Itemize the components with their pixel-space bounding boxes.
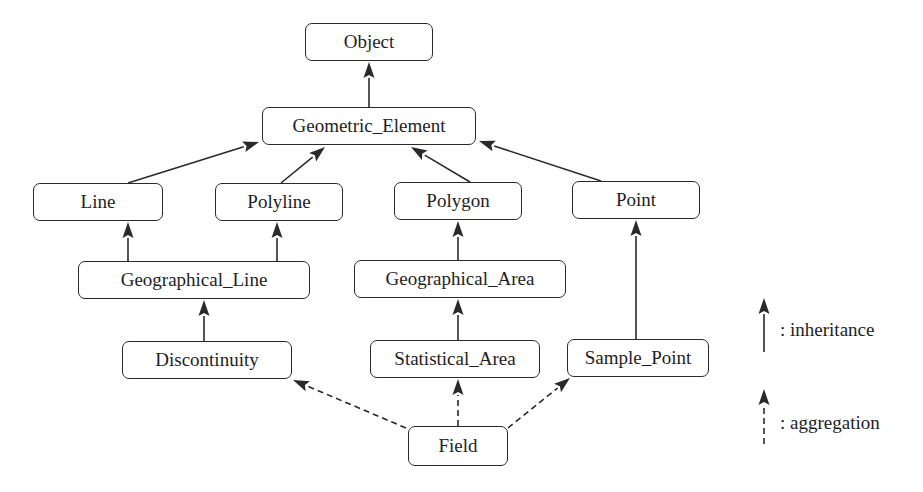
arrowhead-icon <box>272 222 283 238</box>
edge-inheritance-point-to-geometric_element <box>479 141 601 181</box>
aggregation-line <box>508 388 558 428</box>
arrowhead-icon <box>123 222 134 238</box>
class-node-point: Point <box>572 181 700 219</box>
class-node-discontinuity: Discontinuity <box>122 341 292 379</box>
class-node-field: Field <box>408 426 508 466</box>
inheritance-line <box>281 157 313 183</box>
class-node-object: Object <box>305 23 433 61</box>
class-node-label: Sample_Point <box>585 347 692 369</box>
class-node-label: Geographical_Area <box>386 268 535 290</box>
edge-inheritance-geometric_element-to-object <box>364 62 375 107</box>
edge-inheritance-geographical_area-to-polygon <box>453 221 464 260</box>
legend-aggregation-arrow-icon <box>759 389 770 444</box>
edge-aggregation-field-to-sample_point <box>508 378 570 428</box>
edge-inheritance-discontinuity-to-geographical_line <box>199 300 210 341</box>
arrowhead-icon <box>554 378 570 392</box>
edge-inheritance-geographical_line-to-line <box>123 222 134 261</box>
edge-inheritance-statistical_area-to-geographical_area <box>453 299 464 340</box>
arrowhead-icon <box>411 147 428 160</box>
legend-label-aggregation: : aggregation <box>780 412 880 434</box>
aggregation-line <box>308 386 406 428</box>
class-node-label: Field <box>438 435 477 457</box>
class-node-label: Discontinuity <box>155 349 258 371</box>
edge-inheritance-line-to-geometric_element <box>128 142 259 183</box>
inheritance-line <box>494 146 601 181</box>
class-node-geographical-area: Geographical_Area <box>354 260 566 298</box>
arrowhead-icon <box>242 142 259 152</box>
class-node-label: Point <box>616 189 656 211</box>
legend-arrows-layer <box>759 298 770 444</box>
arrowhead-icon <box>199 300 210 316</box>
class-node-label: Geographical_Line <box>121 269 268 291</box>
arrowhead-icon <box>453 221 464 237</box>
class-node-label: Polygon <box>426 190 489 212</box>
arrowhead-icon <box>759 298 770 314</box>
legend-label-inheritance: : inheritance <box>780 319 874 341</box>
class-node-label: Geometric_Element <box>293 115 446 137</box>
class-node-polyline: Polyline <box>215 183 343 221</box>
arrowhead-icon <box>453 379 464 395</box>
edge-aggregation-field-to-statistical_area <box>453 379 464 426</box>
class-node-sample-point: Sample_Point <box>567 339 709 377</box>
class-node-statistical-area: Statistical_Area <box>370 340 540 378</box>
inheritance-line <box>128 147 244 183</box>
class-node-geometric-element: Geometric_Element <box>262 107 476 145</box>
arrowhead-icon <box>631 220 642 236</box>
arrowhead-icon <box>479 141 496 151</box>
class-node-label: Object <box>344 31 395 53</box>
arrowhead-icon <box>309 147 325 161</box>
arrowhead-icon <box>364 62 375 78</box>
class-node-label: Line <box>81 191 116 213</box>
class-node-line: Line <box>33 183 163 221</box>
arrowhead-icon <box>293 380 310 391</box>
edge-inheritance-point_link-to-point <box>631 220 642 339</box>
class-node-label: Polyline <box>247 191 310 213</box>
edge-inheritance-geographical_line-to-polyline <box>272 222 283 261</box>
edge-inheritance-polygon-to-geometric_element <box>411 147 470 182</box>
inheritance-line <box>425 155 470 182</box>
class-node-geographical-line: Geographical_Line <box>78 261 310 299</box>
arrowhead-icon <box>759 389 770 405</box>
edge-inheritance-polyline-to-geometric_element <box>281 147 325 183</box>
legend-inheritance-arrow-icon <box>759 298 770 352</box>
class-node-label: Statistical_Area <box>394 348 515 370</box>
arrowhead-icon <box>453 299 464 315</box>
edge-aggregation-field-to-discontinuity <box>293 380 406 428</box>
class-node-polygon: Polygon <box>394 182 522 220</box>
